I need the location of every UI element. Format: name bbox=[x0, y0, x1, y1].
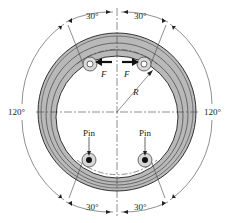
angle-label-bottom-left: 30° bbox=[86, 202, 99, 212]
angle-label-top-right: 30° bbox=[134, 11, 147, 21]
radius-label: R bbox=[132, 87, 139, 97]
pin-label-right: Pin bbox=[139, 128, 152, 138]
top-left-pin bbox=[83, 57, 97, 71]
force-label-left: F bbox=[100, 69, 107, 79]
brake-diagram: 30° 30° 30° 30° 120° 120° F F R Pin Pin bbox=[0, 0, 233, 223]
angle-label-right: 120° bbox=[204, 107, 222, 117]
angle-label-top-left: 30° bbox=[86, 11, 99, 21]
angle-label-bottom-right: 30° bbox=[134, 202, 147, 212]
top-right-pin bbox=[137, 57, 151, 71]
pin-label-left: Pin bbox=[83, 128, 96, 138]
angle-label-left: 120° bbox=[8, 107, 26, 117]
force-label-right: F bbox=[123, 69, 130, 79]
